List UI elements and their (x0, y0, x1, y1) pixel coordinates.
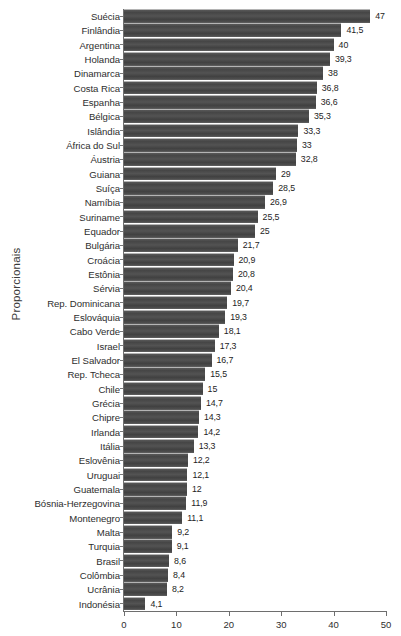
bar (124, 110, 309, 123)
category-label: Estônia (88, 269, 120, 280)
bar (124, 268, 233, 281)
category-label: Sérvia (93, 283, 120, 294)
bar-row: Turquia9,1 (0, 539, 401, 553)
bar-value-label: 8,4 (173, 570, 185, 580)
bar (124, 483, 187, 496)
bar-value-label: 8,2 (172, 584, 184, 594)
category-label: Uruguai (87, 469, 120, 480)
category-label: Irlanda (91, 426, 120, 437)
bar-row: Sérvia20,4 (0, 281, 401, 295)
category-label: Eslovênia (79, 455, 120, 466)
bar-row: Croácia20,9 (0, 253, 401, 267)
bar-row: Colômbia8,4 (0, 568, 401, 582)
bar-value-label: 12,1 (192, 470, 209, 480)
bar-row: África do Sul33 (0, 138, 401, 152)
bar-row: Suíça28,5 (0, 181, 401, 195)
bar-value-label: 14,7 (206, 398, 223, 408)
x-axis-tick-label: 0 (121, 619, 126, 630)
bar-value-label: 17,3 (220, 341, 237, 351)
bar-value-label: 19,7 (232, 298, 249, 308)
bar-value-label: 13,3 (199, 441, 216, 451)
category-label: Bélgica (89, 111, 120, 122)
bar (124, 24, 341, 37)
bar-row: Itália13,3 (0, 439, 401, 453)
bar-row: Holanda39,3 (0, 52, 401, 66)
bar-row: Chipre14,3 (0, 410, 401, 424)
bar-value-label: 20,9 (239, 255, 256, 265)
bar-value-label: 39,3 (335, 54, 352, 64)
bar (124, 254, 234, 267)
bar (124, 10, 370, 23)
bar-value-label: 11,1 (187, 513, 203, 523)
bar-row: Indonésia4,1 (0, 597, 401, 611)
bar-row: Grécia14,7 (0, 396, 401, 410)
bar-value-label: 33,3 (303, 126, 320, 136)
category-label: Suíça (96, 183, 120, 194)
bar-value-label: 33 (302, 140, 312, 150)
bar-row: Montenegro11,1 (0, 511, 401, 525)
category-label: Croácia (87, 254, 120, 265)
bar (124, 497, 186, 510)
category-label: Cabo Verde (70, 326, 120, 337)
bar-row: Áustria32,8 (0, 152, 401, 166)
bar-row: Islândia33,3 (0, 124, 401, 138)
bar-row: Bósnia-Herzegovina11,9 (0, 496, 401, 510)
bar-row: Cabo Verde18,1 (0, 324, 401, 338)
bar-row: Estônia20,8 (0, 267, 401, 281)
x-axis-tick (229, 612, 230, 616)
category-label: Holanda (85, 54, 120, 65)
bar-value-label: 11,9 (191, 498, 207, 508)
category-label: Argentina (79, 39, 120, 50)
bar-value-label: 12,2 (193, 455, 210, 465)
bar-row: Costa Rica36,8 (0, 81, 401, 95)
bar-value-label: 20,8 (238, 269, 255, 279)
bar (124, 340, 215, 353)
bar (124, 211, 258, 224)
category-label: Brasil (96, 555, 120, 566)
bar-row: Guiana29 (0, 167, 401, 181)
bar (124, 583, 167, 596)
bar-value-label: 12 (192, 484, 202, 494)
bar-row: Malta9,2 (0, 525, 401, 539)
category-label: Indonésia (79, 598, 120, 609)
bar-row: Israel17,3 (0, 339, 401, 353)
plot-area: Suécia47Finlândia41,5Argentina40Holanda3… (0, 9, 401, 611)
bar-value-label: 36,8 (322, 83, 339, 93)
y-axis-line (123, 9, 124, 612)
bar (124, 67, 323, 80)
bar-row: Uruguai12,1 (0, 468, 401, 482)
bar (124, 297, 227, 310)
x-axis-tick (386, 612, 387, 616)
bar-row: El Salvador16,7 (0, 353, 401, 367)
bar-row: Brasil8,6 (0, 554, 401, 568)
bar (124, 39, 334, 52)
bar-value-label: 38 (328, 68, 338, 78)
bar (124, 555, 169, 568)
bar (124, 182, 273, 195)
bar-row: Chile15 (0, 382, 401, 396)
x-axis-tick (124, 612, 125, 616)
bar-row: Bulgária21,7 (0, 238, 401, 252)
x-axis-tick (334, 612, 335, 616)
bar-value-label: 40 (339, 40, 349, 50)
bar-value-label: 36,6 (321, 97, 338, 107)
bar (124, 153, 296, 166)
x-axis-tick-label: 20 (224, 619, 235, 630)
category-label: Eslováquia (74, 312, 120, 323)
category-label: Guiana (89, 168, 120, 179)
bar (124, 282, 231, 295)
bar-value-label: 14,3 (204, 412, 221, 422)
category-label: Itália (100, 441, 120, 452)
category-label: Chile (98, 383, 120, 394)
category-label: África do Sul (66, 140, 120, 151)
bar-value-label: 25 (260, 226, 270, 236)
bar-value-label: 14,2 (203, 427, 220, 437)
bar (124, 469, 187, 482)
bar-row: Dinamarca38 (0, 66, 401, 80)
bar-value-label: 19,3 (230, 312, 247, 322)
bar (124, 139, 297, 152)
bar-row: Eslováquia19,3 (0, 310, 401, 324)
bar-value-label: 21,7 (243, 240, 260, 250)
bar-value-label: 20,4 (236, 283, 253, 293)
bar-row: Rep. Dominicana19,7 (0, 296, 401, 310)
